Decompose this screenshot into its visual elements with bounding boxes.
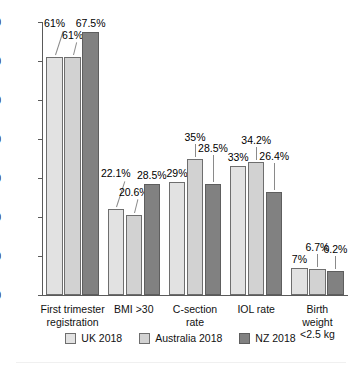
y-tick-label: 40: [0, 134, 1, 144]
bar-data-label: 34.2%: [241, 135, 271, 146]
bar: [309, 269, 326, 295]
y-axis-line: [42, 22, 43, 296]
bar: [108, 209, 125, 295]
legend-item-australia: Australia 2018: [139, 332, 222, 344]
y-tick-mark: [38, 61, 42, 62]
bar-data-label: 6.2%: [323, 244, 347, 255]
bar-data-label: 61%: [44, 18, 65, 29]
label-leader-line: [134, 199, 138, 213]
label-leader-line: [256, 147, 257, 160]
bar: [126, 215, 143, 295]
legend-label-australia: Australia 2018: [155, 332, 222, 344]
plot-area: 706050403020100 61%61%67.5%22.1%20.6%28.…: [42, 22, 348, 296]
x-axis-category-label: C-section rate: [173, 303, 217, 328]
bar-data-label: 28.5%: [137, 170, 167, 181]
bar-group: 29%35%28.5%: [169, 22, 222, 295]
y-tick-mark: [38, 22, 42, 23]
bar-group: 7%6.7%6.2%: [291, 22, 344, 295]
y-tick-label: 0: [0, 290, 1, 300]
bar-data-label: 26.4%: [259, 151, 289, 162]
bar: [144, 184, 161, 295]
bar-data-label: 33%: [228, 152, 249, 163]
y-tick-label: 50: [0, 95, 1, 105]
y-tick-mark: [38, 217, 42, 218]
y-tick-mark: [38, 256, 42, 257]
bar: [230, 166, 247, 295]
chart-legend: UK 2018 Australia 2018 NZ 2018: [0, 332, 361, 344]
legend-label-nz: NZ 2018: [255, 332, 295, 344]
bar: [82, 32, 99, 295]
bar-group: 61%61%67.5%: [46, 22, 99, 295]
x-axis-line: [42, 295, 348, 296]
bar-data-label: 22.1%: [101, 168, 131, 179]
y-tick-label: 20: [0, 212, 1, 222]
bar-group: 33%34.2%26.4%: [230, 22, 283, 295]
label-leader-line: [317, 254, 318, 267]
label-leader-line: [213, 155, 214, 182]
label-leader-line: [274, 163, 275, 190]
legend-label-uk: UK 2018: [81, 332, 122, 344]
legend-item-nz: NZ 2018: [239, 332, 295, 344]
bar-data-label: 29%: [166, 168, 187, 179]
bar-data-label: 7%: [292, 254, 307, 265]
bar: [64, 57, 81, 295]
bar: [248, 162, 265, 295]
y-tick-label: 70: [0, 17, 1, 27]
bar-data-label: 67.5%: [76, 18, 106, 29]
label-leader-line: [195, 144, 196, 157]
label-leader-line: [335, 256, 336, 269]
y-tick-label: 10: [0, 251, 1, 261]
y-tick-mark: [38, 178, 42, 179]
bar: [291, 268, 308, 295]
y-tick-label: 60: [0, 56, 1, 66]
legend-swatch-nz: [239, 333, 250, 344]
bar-data-label: 61%: [62, 30, 83, 41]
y-tick-label: 30: [0, 173, 1, 183]
legend-swatch-australia: [139, 333, 150, 344]
legend-item-uk: UK 2018: [65, 332, 122, 344]
y-tick-mark: [38, 139, 42, 140]
bar: [205, 184, 222, 295]
bar-data-label: 28.5%: [198, 143, 228, 154]
y-tick-mark: [38, 100, 42, 101]
bar: [187, 159, 204, 296]
bar: [266, 192, 283, 295]
y-tick-mark: [38, 295, 42, 296]
bar: [169, 182, 186, 295]
footer-divider: [16, 362, 346, 363]
bar-data-label: 35%: [184, 132, 205, 143]
legend-swatch-uk: [65, 333, 76, 344]
x-axis-category-label: BMI >30: [114, 303, 153, 316]
bar: [327, 271, 344, 295]
x-axis-category-label: IOL rate: [237, 303, 275, 316]
bar: [46, 57, 63, 295]
label-leader-line: [73, 42, 77, 55]
bar-chart: 706050403020100 61%61%67.5%22.1%20.6%28.…: [0, 0, 361, 374]
bar-group: 22.1%20.6%28.5%: [108, 22, 161, 295]
x-axis-category-label: First trimester registration: [41, 303, 105, 328]
